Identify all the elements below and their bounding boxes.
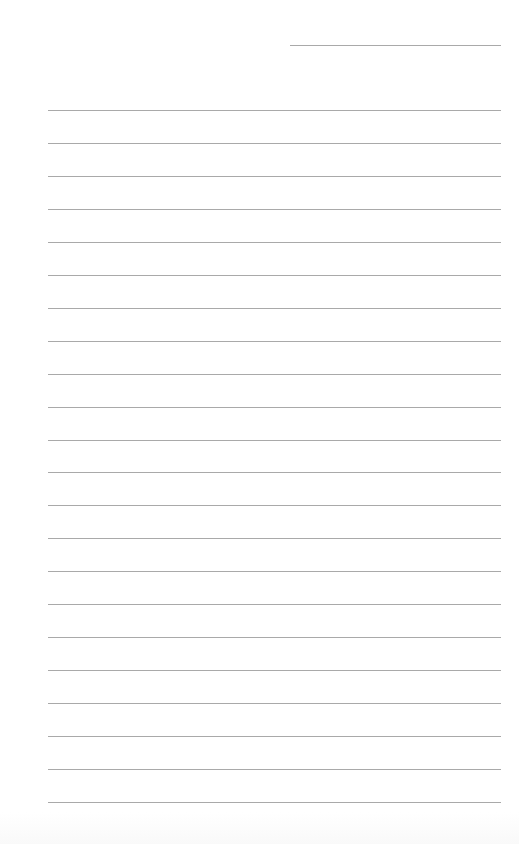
ruled-line[interactable] bbox=[48, 703, 501, 704]
ruled-line[interactable] bbox=[48, 341, 501, 342]
ruled-line[interactable] bbox=[48, 571, 501, 572]
ruled-line[interactable] bbox=[48, 736, 501, 737]
ruled-line[interactable] bbox=[48, 176, 501, 177]
paper-bottom-edge bbox=[0, 812, 519, 844]
ruled-line[interactable] bbox=[48, 275, 501, 276]
lined-paper-page bbox=[0, 0, 519, 844]
ruled-line[interactable] bbox=[48, 110, 501, 111]
ruled-line[interactable] bbox=[48, 505, 501, 506]
ruled-line[interactable] bbox=[48, 308, 501, 309]
ruled-line[interactable] bbox=[48, 407, 501, 408]
ruled-line[interactable] bbox=[48, 538, 501, 539]
ruled-line[interactable] bbox=[48, 242, 501, 243]
date-line[interactable] bbox=[290, 45, 501, 46]
ruled-line[interactable] bbox=[48, 374, 501, 375]
ruled-line[interactable] bbox=[48, 802, 501, 803]
ruled-line[interactable] bbox=[48, 637, 501, 638]
ruled-line[interactable] bbox=[48, 209, 501, 210]
ruled-line[interactable] bbox=[48, 143, 501, 144]
ruled-line[interactable] bbox=[48, 604, 501, 605]
ruled-line[interactable] bbox=[48, 769, 501, 770]
ruled-line[interactable] bbox=[48, 472, 501, 473]
ruled-line[interactable] bbox=[48, 440, 501, 441]
ruled-line[interactable] bbox=[48, 670, 501, 671]
